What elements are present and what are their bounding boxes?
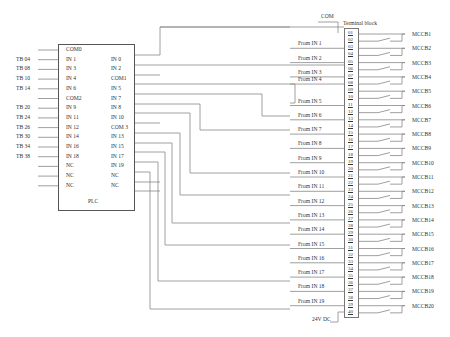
mccb-label: MCCB16: [412, 246, 434, 252]
from-label: From IN 13: [298, 212, 324, 218]
mccb-switch-icon: [378, 267, 390, 270]
mccb-wire: [402, 77, 405, 84]
mccb-switch-icon: [378, 124, 390, 127]
mccb-label: MCCB20: [412, 303, 434, 309]
mccb-switch-icon: [378, 195, 390, 198]
mccb-wire: [402, 291, 405, 298]
from-label: From IN 8: [298, 140, 322, 146]
from-label: From IN 15: [298, 241, 324, 247]
mccb-label: MCCB2: [412, 45, 431, 51]
plc-output-wire: [135, 162, 290, 281]
terminal-block-title: Terminal block: [343, 20, 377, 26]
terminal-number: 22: [348, 180, 353, 186]
mccb-label: MCCB6: [412, 103, 431, 109]
mccb-switch-icon: [378, 296, 390, 299]
mccb-wire: [402, 277, 405, 284]
plc-right-pin: IN 2: [111, 65, 121, 71]
mccb-switch-icon: [378, 224, 390, 227]
plc-right-pin: COM1: [111, 75, 127, 81]
terminal-number: 24: [348, 194, 353, 200]
mccb-wire: [402, 148, 405, 155]
mccb-switch-icon: [378, 110, 390, 113]
terminal-number: 36: [348, 280, 353, 286]
terminal-number: 14: [348, 123, 353, 129]
terminal-number: 34: [348, 266, 353, 272]
tb-reference: TB 24: [16, 114, 30, 120]
terminal-number: 32: [348, 252, 353, 258]
terminal-number: 38: [348, 295, 353, 301]
mccb-switch-icon: [378, 52, 390, 55]
plc-left-pin: IN 1: [66, 56, 76, 62]
mccb-label: MCCB12: [412, 188, 434, 194]
tb-reference: TB 38: [16, 153, 30, 159]
plc-left-pin: NC: [66, 162, 74, 168]
from-label: From IN 5: [298, 98, 322, 104]
plc-right-pin: IN 7: [111, 95, 121, 101]
terminal-number: 31: [348, 245, 353, 251]
plc-right-pin: IN 0: [111, 56, 121, 62]
plc-left-pin: NC: [66, 182, 74, 188]
tb-reference: TB 04: [16, 56, 30, 62]
terminal-number: 06: [348, 66, 353, 72]
mccb-switch-icon: [378, 238, 390, 241]
terminal-number: 23: [348, 187, 353, 193]
mccb-switch-icon: [378, 210, 390, 213]
mccb-wire: [402, 263, 405, 270]
from-label: From IN 16: [298, 255, 324, 261]
tb-reference: TB 34: [16, 143, 30, 149]
plc-output-wire: [135, 27, 290, 55]
mccb-wire: [402, 106, 405, 113]
mccb-label: MCCB1: [412, 31, 431, 37]
from-label: From IN 3: [298, 69, 322, 75]
terminal-number: 20: [348, 166, 353, 172]
plc-right-pin: IN 15: [111, 143, 124, 149]
plc-right-pin: IN 13: [111, 133, 124, 139]
mccb-switch-icon: [378, 167, 390, 170]
from-label: From IN 6: [298, 112, 322, 118]
mccb-wire: [402, 220, 405, 227]
from-label: From IN 14: [298, 226, 324, 232]
from-label: From IN 18: [298, 283, 324, 289]
plc-left-pin: COM2: [66, 95, 82, 101]
terminal-number: 19: [348, 159, 353, 165]
plc-right-pin: IN 17: [111, 153, 124, 159]
from-label: From IN 12: [298, 198, 324, 204]
mccb-label: MCCB13: [412, 203, 434, 209]
mccb-wire: [402, 191, 405, 198]
mccb-wire: [402, 249, 405, 256]
terminal-number: 07: [348, 73, 353, 79]
plc-right-pin: IN 10: [111, 114, 124, 120]
terminal-number: 29: [348, 230, 353, 236]
from-label: From IN 19: [298, 298, 324, 304]
plc-right-pin: NC: [111, 182, 119, 188]
terminal-number: 17: [348, 144, 353, 150]
mccb-label: MCCB17: [412, 260, 434, 266]
plc-output-wire: [135, 104, 290, 130]
plc-right-pin: COM 3: [111, 124, 128, 130]
from-label: From IN 1: [298, 40, 322, 46]
mccb-wire: [402, 48, 405, 55]
terminal-number: 10: [348, 94, 353, 100]
terminal-number: 40: [348, 309, 353, 315]
supply-wire: [330, 312, 344, 322]
mccb-wire: [402, 34, 405, 41]
tb-reference: TB 10: [16, 75, 30, 81]
from-label: From IN 2: [298, 55, 322, 61]
mccb-label: MCCB7: [412, 117, 431, 123]
plc-left-pin: IN 16: [66, 143, 79, 149]
terminal-number: 21: [348, 173, 353, 179]
mccb-switch-icon: [378, 95, 390, 98]
mccb-label: MCCB3: [412, 60, 431, 66]
plc-left-pin: NC: [66, 172, 74, 178]
terminal-number: 16: [348, 137, 353, 143]
mccb-wire: [402, 120, 405, 127]
from-label: From IN 10: [298, 169, 324, 175]
from-label: From IN 11: [298, 183, 324, 189]
plc-left-pin: IN 18: [66, 153, 79, 159]
terminal-number: 04: [348, 51, 353, 57]
terminal-number: 30: [348, 237, 353, 243]
mccb-label: MCCB14: [412, 217, 434, 223]
mccb-switch-icon: [378, 138, 390, 141]
terminal-number: 01: [348, 30, 353, 36]
mccb-wire: [402, 234, 405, 241]
